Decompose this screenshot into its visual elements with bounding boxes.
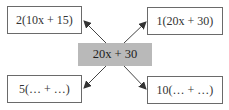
node-top-left: 2(10x + 15) [7,6,82,34]
arrow-to-top-right [124,22,146,43]
center-label: 20x + 30 [93,47,138,62]
arrow-to-bottom-left [84,66,106,88]
arrow-to-bottom-right [124,66,146,89]
node-bottom-right: 10(… + …) [147,76,223,104]
center-node: 20x + 30 [78,43,152,66]
node-label: 1(20x + 30) [157,14,214,29]
node-bottom-left: 5(… + …) [7,75,82,103]
node-top-right: 1(20x + 30) [147,7,223,35]
node-label: 10(… + …) [157,83,214,98]
node-label: 2(10x + 15) [16,13,73,28]
arrow-to-top-left [84,21,106,43]
node-label: 5(… + …) [19,82,70,97]
